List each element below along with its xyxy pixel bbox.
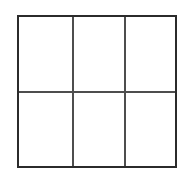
grid-row-divider-1	[19, 91, 175, 93]
grid-cell-r2c3[interactable]	[126, 93, 174, 165]
figure-canvas	[0, 0, 191, 178]
grid-inner	[19, 17, 175, 166]
grid-cell-r2c2[interactable]	[74, 93, 124, 165]
grid-cell-r1c3[interactable]	[126, 17, 174, 91]
grid-cell-r2c1[interactable]	[19, 93, 72, 165]
grid-cell-r1c2[interactable]	[74, 17, 124, 91]
grid-table[interactable]	[17, 15, 177, 168]
grid-cell-r1c1[interactable]	[19, 17, 72, 91]
